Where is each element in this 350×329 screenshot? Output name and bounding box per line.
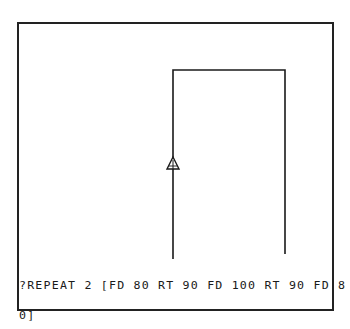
command-console[interactable]: ?REPEAT 2 [FD 80 RT 90 FD 100 RT 90 FD 8… xyxy=(19,261,333,329)
console-line-2: 0] xyxy=(19,311,333,321)
console-line-1: ?REPEAT 2 [FD 80 RT 90 FD 100 RT 90 FD 8 xyxy=(19,281,333,291)
